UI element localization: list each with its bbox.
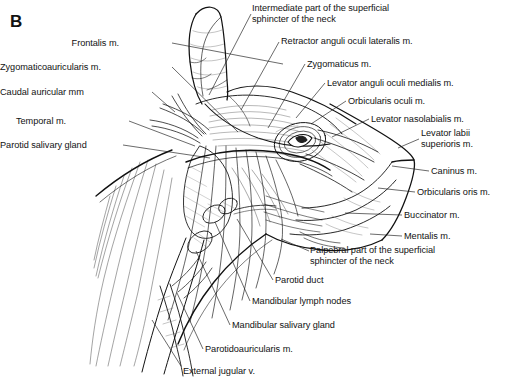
anatomical-figure: B Frontalis m.Zygomaticoauricularis m.Ca… [0, 0, 505, 378]
label-parotid-salivary-gland: Parotid salivary gland [0, 140, 11, 151]
leader-external-jugular [152, 320, 181, 366]
panel-letter: B [10, 13, 22, 30]
parotid-stipple [184, 158, 232, 236]
label-zygomaticus: Zygomaticus m. [307, 59, 371, 70]
label-frontalis: Frontalis m. [0, 38, 119, 49]
leader-retractor-anguli-oculi [241, 42, 279, 110]
leader-caninus [392, 166, 429, 171]
leader-intermediate-sphincter [209, 14, 251, 95]
label-parotidoauricularis: Parotidoauricularis m. [205, 344, 293, 355]
label-levator-labii-superioris: Levator labii superioris m. [421, 128, 473, 149]
mandibular-glands [183, 195, 240, 258]
leader-levator-anguli-oculi [296, 83, 325, 118]
label-levator-anguli-oculi: Levator anguli oculi medialis m. [327, 78, 454, 89]
label-external-jugular: External jugular v. [183, 366, 255, 377]
label-mandibular-lymph-nodes: Mandibular lymph nodes [252, 296, 351, 307]
label-orbicularis-oculi: Orbicularis oculi m. [348, 96, 425, 107]
leader-zygomaticoauricularis [172, 67, 238, 132]
label-parotid-duct: Parotid duct [275, 275, 323, 286]
label-intermediate-sphincter: Intermediate part of the superficial sph… [252, 3, 389, 24]
label-retractor-anguli-oculi: Retractor anguli oculi lateralis m. [281, 36, 413, 47]
label-caninus: Caninus m. [431, 166, 477, 177]
label-levator-nasolabialis: Levator nasolabialis m. [371, 114, 464, 125]
leader-zygomaticus [268, 64, 305, 128]
label-mentalis: Mentalis m. [404, 231, 450, 242]
leader-buccinator [345, 213, 402, 215]
label-palpebral-sphincter: Palpebral part of the superficial sphinc… [310, 245, 435, 266]
neck-dorsal-border [96, 150, 172, 196]
eye [288, 135, 312, 147]
parotid-salivary-gland [183, 146, 232, 238]
leader-palpebral-sphincter [281, 239, 309, 251]
leader-levator-labii-superioris [398, 139, 419, 148]
label-temporal: Temporal m. [0, 116, 66, 127]
label-mandibular-salivary-gland: Mandibular salivary gland [232, 320, 335, 331]
leader-temporal [129, 121, 195, 146]
label-caudal-auricular: Caudal auricular mm [0, 87, 48, 98]
label-orbicularis-oris: Orbicularis oris m. [417, 187, 490, 198]
label-buccinator: Buccinator m. [404, 210, 460, 221]
leader-parotid-salivary-gland [123, 145, 210, 158]
leader-levator-nasolabialis [332, 119, 369, 137]
temporal-hatch [209, 106, 304, 158]
label-zygomaticoauricularis: Zygomaticoauricularis m. [0, 62, 43, 73]
leader-parotid-duct [237, 219, 273, 280]
